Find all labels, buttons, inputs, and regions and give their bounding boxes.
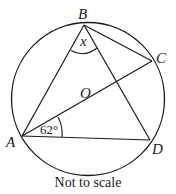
segment-ab <box>22 25 84 136</box>
angle-label-62: 62° <box>40 122 58 137</box>
caption: Not to scale <box>0 175 176 191</box>
label-a: A <box>5 134 16 150</box>
label-o: O <box>80 85 91 101</box>
circle-diagram: B C A D O x 62° <box>0 0 176 194</box>
label-d: D <box>151 141 163 157</box>
angle-label-x: x <box>79 33 87 49</box>
label-b: B <box>78 6 87 22</box>
angle-arc-a <box>58 117 62 137</box>
label-c: C <box>156 50 167 66</box>
